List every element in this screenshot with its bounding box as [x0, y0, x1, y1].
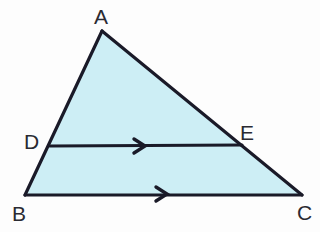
- vertex-label-c: C: [297, 202, 312, 223]
- vertex-label-b: B: [12, 203, 26, 224]
- vertex-label-e: E: [240, 122, 254, 143]
- triangle-figure: [0, 0, 320, 232]
- geometry-diagram: A B C D E: [0, 0, 320, 232]
- triangle-fill-region: [25, 31, 302, 195]
- vertex-label-d: D: [24, 131, 39, 152]
- vertex-label-a: A: [94, 6, 108, 27]
